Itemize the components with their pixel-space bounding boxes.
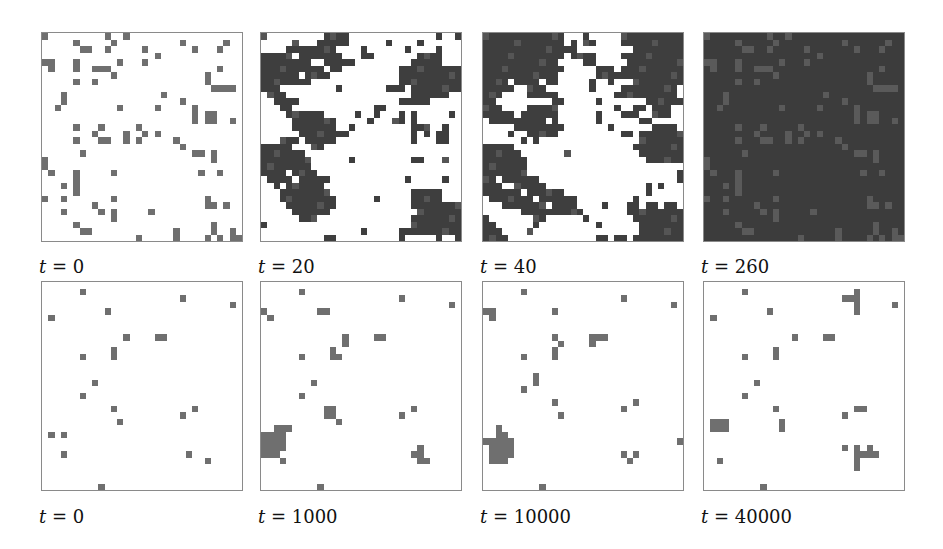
time-label-r0p3: t = 260 bbox=[701, 256, 769, 277]
lattice-panel-r1p1 bbox=[260, 281, 462, 491]
lattice-panel-r1p0 bbox=[41, 281, 243, 491]
lattice-panel-r0p1 bbox=[260, 32, 462, 242]
time-label-r0p2: t = 40 bbox=[480, 256, 537, 277]
time-label-r1p0: t = 0 bbox=[39, 506, 84, 527]
lattice-panel-r1p2 bbox=[482, 281, 684, 491]
time-label-r0p1: t = 20 bbox=[258, 256, 315, 277]
lattice-panel-r0p0 bbox=[41, 32, 243, 242]
time-label-r1p1: t = 1000 bbox=[258, 506, 338, 527]
time-label-r0p0: t = 0 bbox=[39, 256, 84, 277]
lattice-panel-r0p3 bbox=[703, 32, 905, 242]
lattice-panel-r0p2 bbox=[482, 32, 684, 242]
lattice-panel-r1p3 bbox=[703, 281, 905, 491]
time-label-r1p3: t = 40000 bbox=[701, 506, 792, 527]
time-label-r1p2: t = 10000 bbox=[480, 506, 571, 527]
